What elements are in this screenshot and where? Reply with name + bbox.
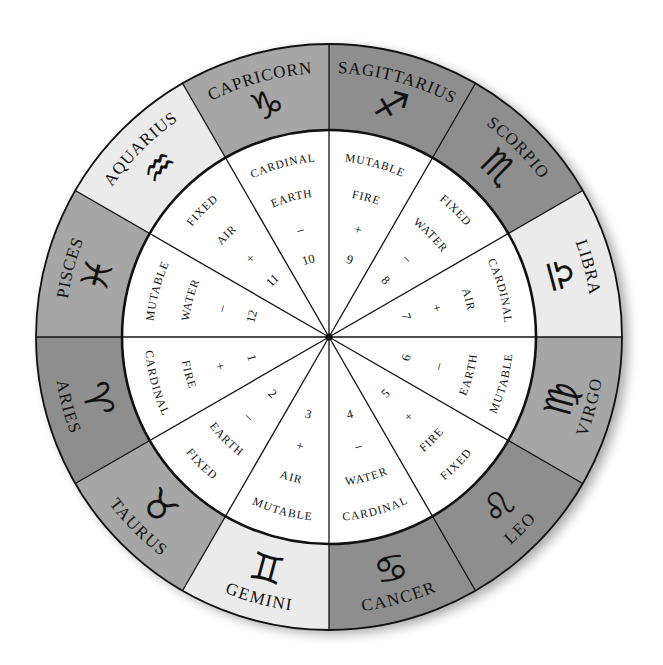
zodiac-wheel: LIBRA♎︎SCORPIO♏︎SAGITTARIUS♐︎CAPRICORN♑︎… (0, 0, 663, 665)
center-dot (326, 334, 333, 341)
